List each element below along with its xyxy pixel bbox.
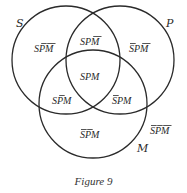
svg-text:SPM: SPM xyxy=(150,125,170,136)
region-labels: SPMSPMSPMSPMSPMSPMSPMSPM xyxy=(34,36,172,140)
svg-text:SPM: SPM xyxy=(129,43,149,54)
svg-text:SPM: SPM xyxy=(80,36,100,47)
region-outside: SPM xyxy=(150,125,172,136)
region-P-and-M: SPM xyxy=(112,95,132,106)
svg-text:SPM: SPM xyxy=(34,43,54,54)
region-P-only: SPM xyxy=(129,43,151,54)
set-label-m: M xyxy=(136,142,149,155)
region-S-and-M: SPM xyxy=(52,95,72,106)
svg-text:SPM: SPM xyxy=(52,95,72,106)
set-label-p: P xyxy=(165,17,174,30)
svg-text:SPM: SPM xyxy=(80,129,100,140)
svg-text:SPM: SPM xyxy=(80,71,100,82)
svg-text:SPM: SPM xyxy=(112,95,132,106)
region-S-only: SPM xyxy=(34,43,56,54)
venn-diagram: SPM SPMSPMSPMSPMSPMSPMSPMSPM xyxy=(0,0,187,193)
region-S-P-M: SPM xyxy=(80,71,100,82)
set-label-s: S xyxy=(16,17,24,30)
region-S-and-P: SPM xyxy=(80,36,102,47)
region-M-only: SPM xyxy=(80,129,100,140)
figure-caption: Figure 9 xyxy=(0,175,187,187)
